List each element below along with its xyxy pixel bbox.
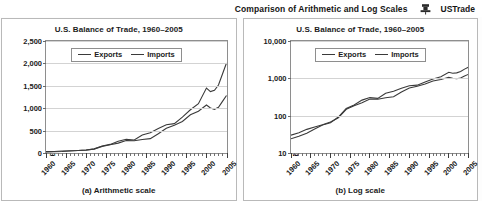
chart-panel-log[interactable]: U.S. Balance of Trade, 1960–2005 Billion… (243, 18, 479, 201)
x-axis-tick-minor (362, 153, 363, 156)
x-axis-tick-major (66, 153, 67, 158)
y-axis-tick-label: 10 (278, 149, 286, 158)
x-axis-tick-minor (314, 153, 315, 156)
x-axis-tick-minor (122, 153, 123, 156)
x-axis-tick-minor (158, 153, 159, 156)
x-axis-tick-minor (210, 153, 211, 156)
plot-area-arithmetic[interactable]: Exports Imports 05001,0001,5002,0002,500… (45, 40, 228, 154)
x-axis-tick-label: 1985 (382, 159, 400, 177)
legend-arithmetic: Exports Imports (71, 48, 181, 62)
x-axis-tick-minor (138, 153, 139, 156)
x-axis-tick-major (166, 153, 167, 158)
x-axis-tick-label: 1995 (422, 159, 440, 177)
x-axis-tick-minor (306, 153, 307, 156)
y-axis-tick-label: 1,000 (23, 104, 42, 113)
x-axis-tick-minor (417, 153, 418, 156)
x-axis-tick-major (389, 153, 390, 158)
gridline (46, 63, 227, 64)
x-axis-tick-label: 2000 (200, 159, 218, 177)
figure-header: Comparison of Arithmetic and Log Scales … (0, 0, 482, 17)
y-axis-tick (43, 86, 46, 87)
legend-label-exports: Exports (338, 51, 366, 59)
x-axis-tick-minor (98, 153, 99, 156)
x-axis-tick-minor (78, 153, 79, 156)
x-axis-tick-minor (464, 153, 465, 156)
x-axis-tick-minor (421, 153, 422, 156)
series-line-exports (291, 74, 469, 135)
x-axis-tick-minor (444, 153, 445, 156)
x-axis-tick-label: 1975 (99, 159, 117, 177)
legend-swatch-exports (322, 54, 335, 55)
pushpin-icon[interactable] (419, 3, 432, 15)
x-axis-tick-minor (425, 153, 426, 156)
y-axis-tick-label: 500 (29, 126, 42, 135)
legend-swatch-imports (131, 54, 144, 55)
x-axis-tick-minor (334, 153, 335, 156)
x-axis-tick-label: 1980 (363, 159, 381, 177)
x-axis-tick-label: 1990 (160, 159, 178, 177)
x-axis-tick-minor (154, 153, 155, 156)
x-axis-tick-minor (118, 153, 119, 156)
x-axis-tick-minor (202, 153, 203, 156)
x-axis-tick-label: 1960 (284, 159, 302, 177)
gridline (291, 41, 469, 42)
gridline (46, 41, 227, 42)
x-axis-tick-major (126, 153, 127, 158)
chart-caption-arithmetic: (a) Arithmetic scale (2, 186, 236, 195)
x-axis-tick-minor (452, 153, 453, 156)
x-axis-tick-label: 2005 (461, 159, 479, 177)
x-axis-tick-major (409, 153, 410, 158)
x-axis-tick-minor (436, 153, 437, 156)
x-axis-tick-label: 1980 (119, 159, 137, 177)
x-axis-tick-minor (110, 153, 111, 156)
x-axis-tick-major (86, 153, 87, 158)
x-axis-tick-minor (354, 153, 355, 156)
legend-log: Exports Imports (315, 48, 425, 62)
y-axis-tick-label: 100 (274, 111, 287, 120)
x-axis-tick-minor (381, 153, 382, 156)
x-axis-tick-minor (397, 153, 398, 156)
x-axis-tick-minor (174, 153, 175, 156)
chart-panels: U.S. Balance of Trade, 1960–2005 Billion… (0, 18, 482, 201)
x-axis-tick-minor (194, 153, 195, 156)
gridline (291, 116, 469, 117)
x-axis-tick-minor (50, 153, 51, 156)
x-axis-tick-minor (170, 153, 171, 156)
x-axis-tick-minor (222, 153, 223, 156)
x-axis-tick-minor (162, 153, 163, 156)
chart-panel-arithmetic-inner: U.S. Balance of Trade, 1960–2005 Billion… (2, 19, 236, 200)
x-axis-tick-major (369, 153, 370, 158)
legend-swatch-imports (375, 54, 388, 55)
x-axis-tick-minor (114, 153, 115, 156)
workbook-name-label: USTrade (441, 4, 476, 14)
legend-item-imports: Imports (131, 51, 175, 59)
x-axis-tick-label: 1970 (79, 159, 97, 177)
x-axis-tick-minor (460, 153, 461, 156)
x-axis-tick-label: 2000 (441, 159, 459, 177)
x-axis-tick-label: 1975 (343, 159, 361, 177)
x-axis-tick-minor (198, 153, 199, 156)
legend-item-imports: Imports (375, 51, 419, 59)
x-axis-tick-minor (58, 153, 59, 156)
x-axis-tick-label: 1960 (39, 159, 57, 177)
x-axis-tick-minor (218, 153, 219, 156)
gridline (291, 78, 469, 79)
figure-header-title: Comparison of Arithmetic and Log Scales (235, 4, 408, 14)
legend-item-exports: Exports (78, 51, 122, 59)
plot-area-log[interactable]: Exports Imports 101001,00010,00019601965… (290, 40, 470, 154)
x-axis-tick-minor (182, 153, 183, 156)
x-axis-tick-minor (94, 153, 95, 156)
x-axis-tick-minor (130, 153, 131, 156)
x-axis-tick-label: 1970 (323, 159, 341, 177)
y-axis-tick (43, 63, 46, 64)
gridline (46, 108, 227, 109)
x-axis-tick-minor (338, 153, 339, 156)
x-axis-tick-minor (62, 153, 63, 156)
x-axis-tick-minor (90, 153, 91, 156)
series-line-exports (46, 96, 227, 152)
legend-label-imports: Imports (391, 51, 419, 59)
x-axis-tick-major (330, 153, 331, 158)
chart-panel-arithmetic[interactable]: U.S. Balance of Trade, 1960–2005 Billion… (1, 18, 237, 201)
x-axis-tick-minor (190, 153, 191, 156)
y-axis-tick (43, 131, 46, 132)
